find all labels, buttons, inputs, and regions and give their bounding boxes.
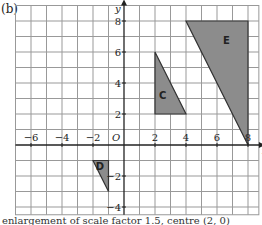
x-tick-label: 6 [214, 132, 220, 143]
x-tick-label: −2 [86, 132, 101, 143]
caption: enlargement of scale factor 1.5, centre … [2, 215, 230, 225]
shape-label-c: C [159, 90, 166, 101]
coordinate-grid: CEDxyO−6−4−224688642−2−4 [0, 0, 262, 225]
shape-label-d: D [96, 161, 104, 172]
x-tick-label: −6 [24, 132, 39, 143]
y-axis-label: y [114, 3, 121, 14]
y-tick-label: −4 [106, 202, 121, 213]
x-tick-label: −4 [55, 132, 70, 143]
x-tick-label: 2 [152, 132, 158, 143]
y-axis-arrow-icon [121, 0, 127, 6]
y-tick-label: 8 [115, 16, 121, 27]
y-tick-label: 4 [115, 78, 121, 89]
x-tick-label: 8 [245, 132, 251, 143]
y-tick-label: −2 [106, 171, 121, 182]
origin-label: O [112, 132, 120, 143]
y-tick-label: 6 [115, 47, 121, 58]
y-tick-label: 2 [115, 109, 121, 120]
shape-label-e: E [223, 35, 230, 46]
x-tick-label: 4 [183, 132, 189, 143]
